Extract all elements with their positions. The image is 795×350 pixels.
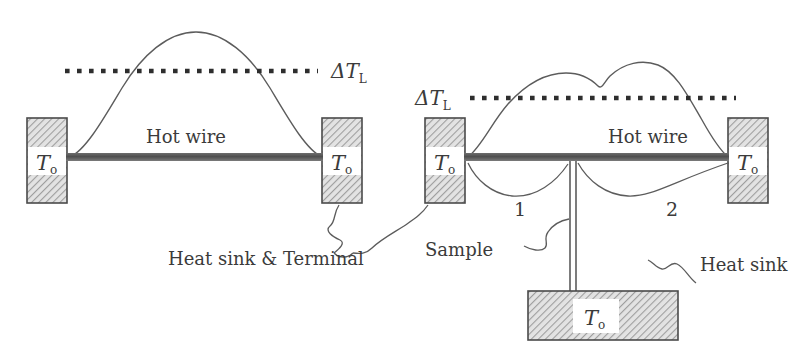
delta-t-delta-glyph-right: Δ <box>414 86 429 110</box>
heat-sink-block-right-2: To <box>728 118 768 203</box>
t-subscript: o <box>345 163 352 177</box>
heat-sink-callout-label: Heat sink <box>700 254 789 275</box>
sample-region-curve-2 <box>578 163 728 196</box>
heat-sink-terminal-callout-label: Heat sink & Terminal <box>168 248 364 269</box>
panel-right: ΔTL To To Hot wire <box>414 62 789 340</box>
delta-t-delta-glyph-left: Δ <box>330 59 345 83</box>
t-subscript: o <box>751 163 758 177</box>
sample-stem <box>570 161 576 292</box>
delta-t-subscript-left: L <box>359 72 367 86</box>
hot-wire-bar-left <box>66 153 323 161</box>
figure-canvas: ΔTL To To Hot wire <box>0 0 795 350</box>
delta-t-label-right: ΔTL <box>414 86 451 113</box>
callout-leader-squiggle-a <box>328 205 342 253</box>
delta-t-label-left: ΔTL <box>330 59 367 86</box>
hot-wire-label-left: Hot wire <box>146 126 226 147</box>
heat-sink-callout-leader <box>648 260 696 283</box>
hot-wire-label-right: Hot wire <box>608 126 688 147</box>
callout-leader-squiggle-b <box>353 205 428 253</box>
t-subscript: o <box>50 163 57 177</box>
t-subscript: o <box>598 318 605 332</box>
sample-region-curve-1 <box>468 163 568 196</box>
heat-sink-block-right-1: To <box>425 118 465 203</box>
sample-region-number-2: 2 <box>666 198 678 220</box>
diagram-svg: ΔTL To To Hot wire <box>0 0 795 350</box>
sample-region-number-1: 1 <box>514 198 526 220</box>
sample-callout-leader <box>524 219 569 250</box>
heat-sink-block-bottom: To <box>528 291 678 340</box>
heat-sink-block-left-2: To <box>322 118 362 203</box>
hot-wire-bar-right <box>464 153 729 161</box>
delta-t-subscript-right: L <box>443 99 451 113</box>
panel-left: ΔTL To To Hot wire <box>27 32 428 269</box>
sample-callout-label: Sample <box>425 239 493 260</box>
temperature-profile-curve-right <box>468 62 728 157</box>
heat-sink-block-left-1: To <box>27 118 67 203</box>
t-subscript: o <box>448 163 455 177</box>
